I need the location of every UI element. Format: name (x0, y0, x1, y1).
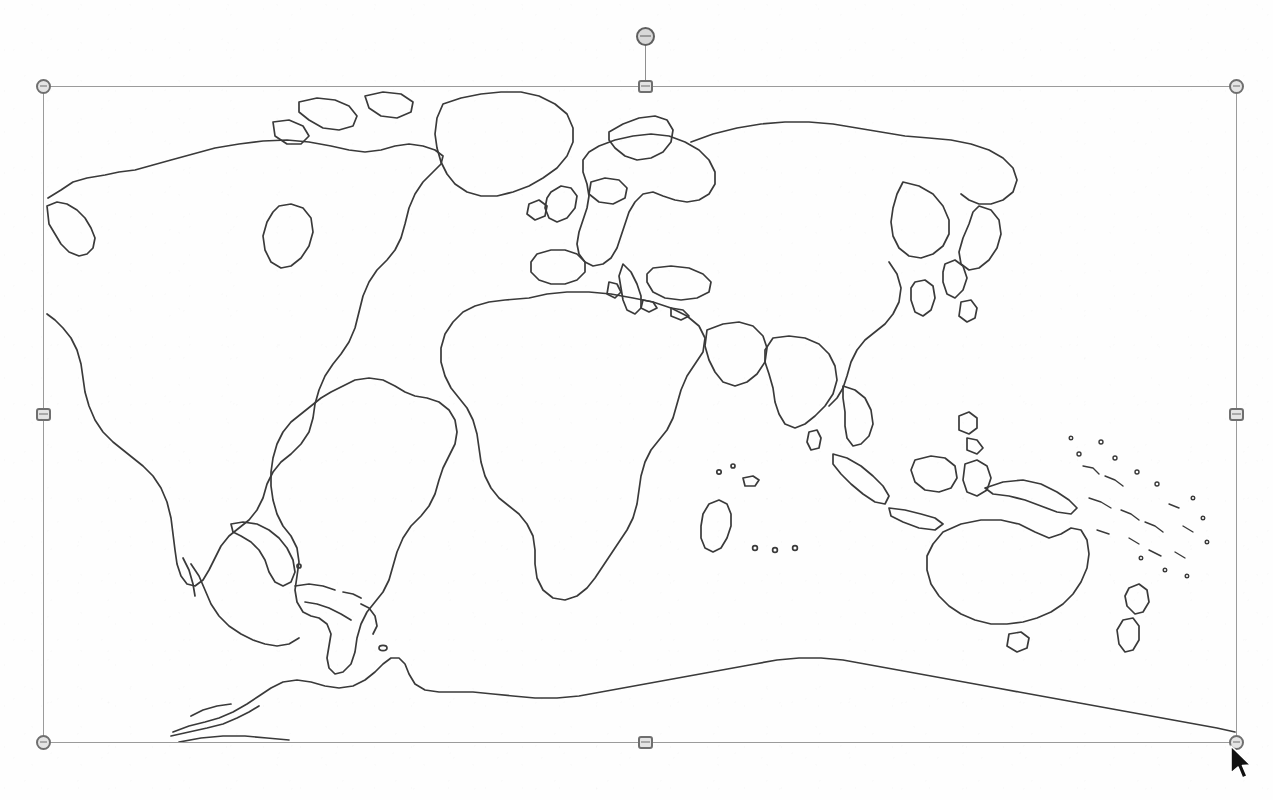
handle-top-left[interactable] (36, 79, 51, 94)
landmass-europe (527, 116, 715, 320)
landmass-asia (691, 122, 1017, 530)
world-map-svg (43, 86, 1236, 742)
rotation-handle[interactable] (636, 27, 655, 46)
landmass-north-america (47, 140, 443, 646)
landmass-south-america (271, 378, 457, 674)
handle-top-right[interactable] (1229, 79, 1244, 94)
handle-bottom-left[interactable] (36, 735, 51, 750)
mouse-cursor (1228, 744, 1254, 782)
landmass-africa (441, 292, 797, 600)
landmass-greenland (273, 92, 627, 204)
handle-bottom-right[interactable] (1229, 735, 1244, 750)
handle-top-center[interactable] (638, 80, 653, 93)
editor-canvas (0, 0, 1273, 800)
pacific-islands (1069, 436, 1209, 578)
handle-middle-left[interactable] (36, 408, 51, 421)
handle-middle-right[interactable] (1229, 408, 1244, 421)
landmass-australia (927, 436, 1209, 652)
handle-bottom-center[interactable] (638, 736, 653, 749)
world-map-image-object[interactable] (43, 86, 1236, 742)
